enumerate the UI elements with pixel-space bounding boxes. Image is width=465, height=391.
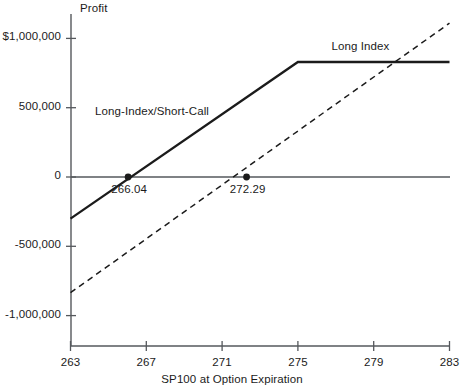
x-tick-label-3: 275 — [288, 356, 308, 368]
long-index-series-line — [71, 23, 450, 293]
series-annotation-0: Long-Index/Short-Call — [95, 105, 209, 117]
y-tick-label-0: $1,000,000 — [2, 30, 61, 42]
breakeven-point-marker — [243, 174, 250, 181]
breakeven-label-1: 272.29 — [230, 183, 266, 195]
y-tick-label-2: 0 — [55, 169, 62, 181]
chart-canvas — [0, 0, 465, 391]
y-axis-title: Profit — [80, 2, 107, 14]
profit-chart: Profit SP100 at Option Expiration $1,000… — [0, 0, 465, 391]
y-tick-label-4: -1,000,000 — [5, 308, 61, 320]
x-axis-title: SP100 at Option Expiration — [161, 373, 302, 385]
y-tick-label-1: 500,000 — [19, 100, 61, 112]
y-tick-label-3: -500,000 — [15, 238, 61, 250]
x-tick-label-4: 279 — [364, 356, 384, 368]
breakeven-point-marker — [125, 174, 132, 181]
breakeven-label-0: 266.04 — [111, 183, 147, 195]
x-tick-label-5: 283 — [440, 356, 460, 368]
x-tick-label-1: 267 — [137, 356, 157, 368]
x-tick-label-2: 271 — [212, 356, 232, 368]
series-annotation-1: Long Index — [331, 40, 389, 52]
long-index-short-call-series-line — [71, 62, 450, 219]
x-tick-label-0: 263 — [61, 356, 81, 368]
